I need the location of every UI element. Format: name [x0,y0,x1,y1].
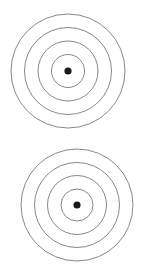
diagram-background [0,0,146,271]
concentric-circles-diagram [0,0,146,271]
target-top-center-dot [64,67,71,74]
target-bottom-center-dot [73,201,80,208]
